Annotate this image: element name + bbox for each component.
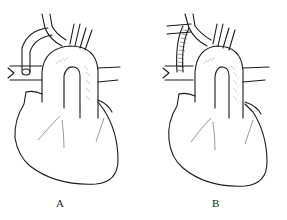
panel-a-label: A [56,197,64,209]
figure-caption [85,210,210,216]
panel-a-heart-illustration [0,0,145,200]
panel-b-label: B [212,197,219,209]
panel-b-heart-illustration [145,0,287,200]
heart-a-drawing [0,0,145,200]
heart-b-drawing [145,0,287,200]
